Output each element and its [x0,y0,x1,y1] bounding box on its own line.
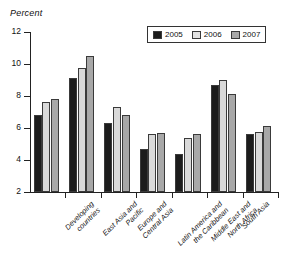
bar-group [30,32,65,192]
y-axis-unit-title: Percent [10,8,42,18]
bar-group [136,32,171,192]
bar-2007 [122,115,130,192]
legend-swatch-icon [192,31,201,39]
bar-2005 [211,85,219,192]
x-axis-tick-mark [65,192,66,198]
legend-item-2006[interactable]: 2006 [192,30,222,39]
bar-2007 [263,126,271,192]
x-axis-tick-mark [172,192,173,198]
x-axis-tick-mark [101,192,102,198]
y-axis-tick-mark [24,192,30,193]
bar-group [172,32,207,192]
bar-2006 [148,134,156,192]
chart-legend: 200520062007 [147,26,266,43]
bar-2006 [219,80,227,192]
y-axis-tick: 2 [24,192,30,193]
bar-2005 [34,115,42,192]
bar-2006 [255,132,263,192]
y-axis-tick-label: 6 [16,122,21,133]
y-axis-tick-label: 12 [12,26,21,37]
y-axis-tick-label: 2 [16,186,21,197]
bar-2007 [86,56,94,192]
bar-2005 [246,134,254,192]
bar-group [207,32,242,192]
bar-2005 [104,123,112,192]
bar-group [101,32,136,192]
x-axis-category-label: Europe and Central Asia [135,200,175,240]
bar-2007 [193,134,201,192]
bar-chart: Percent 24681012 Developing countriesEas… [0,0,284,272]
y-axis-tick-label: 8 [16,90,21,101]
x-axis-tick-mark [207,192,208,198]
legend-swatch-icon [153,31,162,39]
legend-item-label: 2005 [165,30,183,39]
x-axis-category-label: Developing countries [63,200,101,238]
bar-2007 [51,99,59,192]
x-axis-tick-mark [243,192,244,198]
bar-2005 [175,154,183,192]
x-axis-tick-mark [136,192,137,198]
legend-item-label: 2006 [204,30,222,39]
bar-group [65,32,100,192]
bar-2006 [184,138,192,192]
bar-2007 [228,94,236,192]
legend-item-label: 2007 [243,30,261,39]
y-axis-tick-label: 4 [16,154,21,165]
bar-group [243,32,278,192]
legend-swatch-icon [231,31,240,39]
plot-area [30,32,278,192]
y-axis-tick-label: 10 [12,58,21,69]
bar-2005 [140,149,148,192]
bar-2006 [78,68,86,192]
bar-2006 [113,107,121,192]
bar-2007 [157,133,165,192]
legend-item-2007[interactable]: 2007 [231,30,261,39]
legend-item-2005[interactable]: 2005 [153,30,183,39]
bar-2005 [69,78,77,192]
bar-2006 [42,102,50,192]
x-axis-tick-mark [278,192,279,198]
